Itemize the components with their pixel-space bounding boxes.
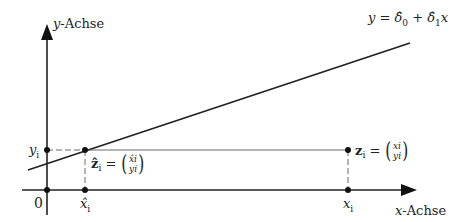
x-axis-label: x-Achse	[395, 204, 446, 217]
xhat-label: x̂i	[80, 197, 90, 214]
y-axis-suffix: -Achse	[60, 16, 104, 31]
line-equation: y = δ̂0 + δ̂1x	[368, 11, 448, 28]
diagram-canvas	[0, 0, 466, 222]
eq-plus: +	[408, 10, 427, 25]
y-axis-label: y-Achse	[53, 17, 104, 30]
xi-point	[345, 187, 351, 193]
z-point	[345, 147, 351, 153]
yi-label: yi	[29, 143, 39, 160]
zhat-vector: (x̂iyi)	[120, 153, 145, 175]
xhat-point	[82, 187, 88, 193]
xi-label: xi	[343, 197, 353, 214]
eq-x: x	[441, 10, 448, 25]
yi-point	[44, 147, 50, 153]
zhat-point	[82, 147, 88, 153]
zhat-bottom: yi	[129, 164, 137, 174]
xhat-sub: i	[87, 204, 90, 214]
xi-sub: i	[350, 204, 353, 214]
z-top: xi	[393, 141, 401, 151]
yi-sub: i	[36, 150, 39, 160]
origin-label: 0	[34, 196, 43, 210]
z-equals: =	[365, 143, 384, 158]
zhat-label: ẑi = (x̂iyi)	[91, 153, 146, 175]
eq-delta1: δ̂	[427, 10, 435, 25]
x-axis-arrow-icon	[401, 184, 417, 196]
zhat-equals: =	[101, 156, 120, 171]
z-vector: (xiyi)	[384, 140, 409, 162]
y-axis-arrow-icon	[41, 24, 53, 40]
x-axis-suffix: -Achse	[402, 203, 446, 218]
origin-point	[44, 187, 50, 193]
eq-equals: =	[375, 10, 394, 25]
z-bottom: yi	[393, 151, 401, 161]
zhat-top: x̂i	[129, 154, 137, 164]
z-label: zi = (xiyi)	[355, 140, 410, 162]
